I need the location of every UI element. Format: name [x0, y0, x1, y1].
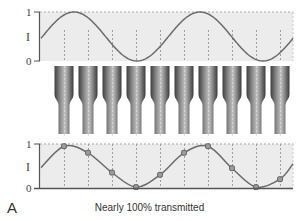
sample-marker: [62, 144, 67, 149]
optical-fiber: [271, 66, 290, 138]
fiber-body: [247, 66, 266, 134]
bottom-plot-y-tick-label-1: 1: [26, 138, 32, 150]
sample-marker: [206, 144, 211, 149]
fiber-body: [271, 66, 290, 134]
optical-fiber: [103, 66, 122, 138]
fiber-body: [55, 66, 74, 134]
fiber-bundle: [55, 66, 290, 138]
optical-fiber: [175, 66, 194, 138]
fiber-body: [127, 66, 146, 134]
fiber-body: [103, 66, 122, 134]
fiber-body: [199, 66, 218, 134]
bottom-plot-y-tick-label-0: 0: [26, 182, 32, 194]
top-plot: 1 I 0: [26, 6, 293, 67]
caption: Nearly 100% transmitted: [0, 202, 299, 213]
optical-fiber: [223, 66, 242, 138]
sample-marker: [158, 172, 163, 177]
top-plot-y-tick-label-0: 0: [26, 55, 32, 67]
optical-fiber: [127, 66, 146, 138]
optical-fiber: [199, 66, 218, 138]
figure: 1 I 0 1 I 0: [0, 0, 299, 221]
bottom-plot: 1 I 0: [26, 138, 293, 194]
optical-fiber: [55, 66, 74, 138]
sample-marker: [182, 150, 187, 155]
top-plot-background: [40, 12, 293, 61]
bottom-plot-background: [40, 144, 293, 188]
optical-fiber: [247, 66, 266, 138]
sample-marker: [278, 177, 283, 182]
bottom-plot-y-axis-label: I: [26, 160, 30, 174]
sample-marker: [86, 150, 91, 155]
optical-fiber: [151, 66, 170, 138]
fiber-body: [175, 66, 194, 134]
fiber-body: [151, 66, 170, 134]
optical-fiber: [79, 66, 98, 138]
sample-marker: [230, 166, 235, 171]
fiber-body: [79, 66, 98, 134]
top-plot-y-axis-label: I: [26, 30, 30, 44]
fiber-body: [223, 66, 242, 134]
top-plot-y-tick-label-1: 1: [26, 6, 32, 18]
sample-marker: [110, 170, 115, 175]
